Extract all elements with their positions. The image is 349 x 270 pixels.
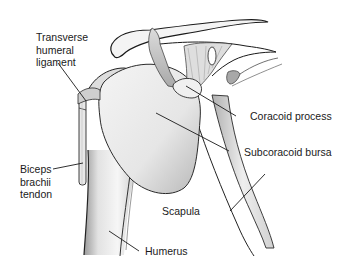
label-scapula: Scapula: [162, 205, 200, 218]
label-line: ligament: [36, 56, 76, 68]
label-line: humeral: [36, 44, 74, 56]
label-line: Transverse: [36, 31, 88, 43]
leader-biceps-tendon: [53, 163, 83, 169]
label-subcoracoid-bursa: Subcoracoid bursa: [244, 146, 332, 159]
label-line: Subcoracoid bursa: [244, 146, 332, 158]
label-line: Biceps: [20, 163, 52, 175]
biceps-tendon-shape: [79, 95, 86, 185]
label-line: Humerus: [145, 245, 188, 257]
transverse-ligament-shape: [78, 88, 100, 104]
leader-transverse-ligament: [58, 63, 86, 101]
label-transverse-humeral-ligament: Transverse humeral ligament: [36, 31, 88, 69]
label-line: tendon: [20, 188, 52, 200]
ligaments-shape: [149, 28, 282, 90]
shoulder-anatomy-diagram: Transverse humeral ligament Coracoid pro…: [0, 0, 349, 270]
label-biceps-brachii-tendon: Biceps brachii tendon: [20, 163, 52, 201]
label-line: Scapula: [162, 205, 200, 217]
label-coracoid-process: Coracoid process: [250, 110, 332, 123]
label-line: Coracoid process: [250, 110, 332, 122]
label-humerus: Humerus: [145, 245, 188, 258]
label-line: brachii: [20, 176, 51, 188]
